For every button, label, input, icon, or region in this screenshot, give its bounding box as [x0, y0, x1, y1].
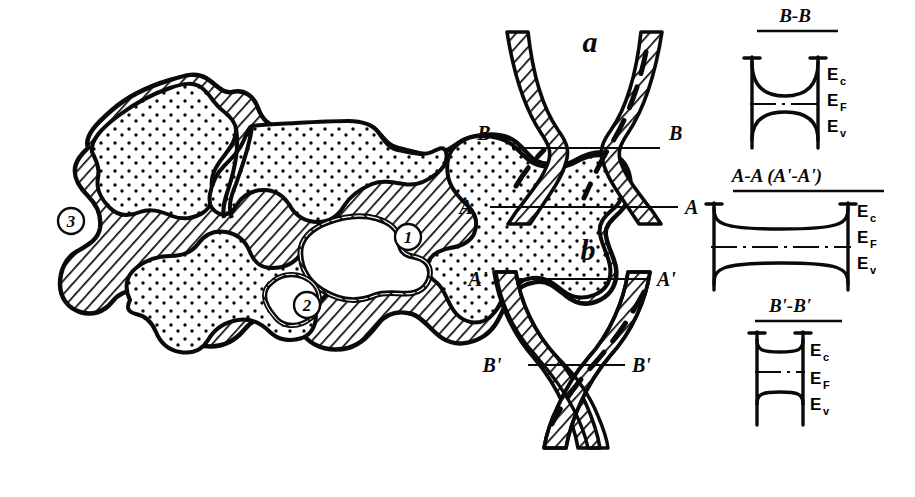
ev-label-bb: E v: [827, 117, 847, 139]
ec-symbol-aa: E: [857, 202, 868, 221]
band-diagram-bb-title: B-B: [778, 5, 811, 26]
section-b-b-label-right: B: [668, 122, 682, 144]
ec-label-bpbp: E c: [810, 341, 829, 363]
callout-1-label: 1: [404, 228, 413, 247]
ef-symbol-bb: E: [827, 91, 838, 110]
ev-symbol-aa: E: [857, 254, 868, 273]
section-a-a-label-left: A: [457, 196, 472, 218]
ef-subscript-bpbp: F: [823, 379, 830, 391]
ef-subscript-bb: F: [840, 101, 847, 113]
bpbp-conduction-band: [757, 340, 803, 352]
callout-3: 3: [58, 208, 84, 234]
ev-symbol-bb: E: [827, 117, 838, 136]
ef-symbol-bpbp: E: [810, 369, 821, 388]
ef-symbol-aa: E: [857, 228, 868, 247]
aa-valence-band: [714, 263, 848, 284]
callout-1: 1: [395, 224, 421, 250]
band-diagram-bb: B-B E c E F E v: [744, 5, 847, 148]
bpbp-valence-band: [757, 392, 803, 404]
ev-subscript-aa: v: [870, 264, 877, 276]
section-b-b-label-left: B: [476, 122, 490, 144]
ec-subscript-bpbp: c: [823, 351, 829, 363]
section-b-prime-label-right: B': [631, 354, 651, 376]
callout-3-label: 3: [66, 212, 76, 231]
band-diagram-aa: A-A (A'-A') E c E F E v: [706, 165, 884, 290]
diagram-b-label: b: [581, 233, 596, 266]
ev-subscript-bb: v: [840, 127, 847, 139]
bb-valence-band: [752, 112, 818, 140]
ef-label-bpbp: E F: [810, 369, 830, 391]
figure-root: 1 2 3 B B A: [0, 0, 915, 497]
ev-subscript-bpbp: v: [823, 405, 830, 417]
band-diagram-bpbp: B'-B' E c E F E v: [749, 295, 842, 425]
band-diagram-bpbp-title: B'-B': [768, 295, 811, 316]
ec-symbol-bpbp: E: [810, 341, 821, 360]
section-b-prime-label-left: B': [482, 354, 502, 376]
section-a-prime-label-left: A': [467, 268, 488, 290]
aa-conduction-band: [714, 208, 848, 229]
section-a-a-label-right: A: [683, 196, 698, 218]
section-a-prime-label-right: A': [655, 268, 676, 290]
ef-label-bb: E F: [827, 91, 847, 113]
ef-subscript-aa: F: [870, 238, 877, 250]
figure-canvas: 1 2 3 B B A: [0, 0, 915, 497]
ev-symbol-bpbp: E: [810, 395, 821, 414]
ec-label-bb: E c: [827, 65, 846, 87]
ec-subscript-bb: c: [840, 75, 846, 87]
band-diagram-aa-title: A-A (A'-A'): [731, 165, 822, 187]
ec-subscript-aa: c: [870, 212, 876, 224]
callout-2-label: 2: [302, 296, 312, 315]
diagram-a-label: a: [583, 25, 598, 58]
ec-label-aa: E c: [857, 202, 876, 224]
ev-label-bpbp: E v: [810, 395, 830, 417]
bb-conduction-band: [752, 62, 818, 96]
ec-symbol-bb: E: [827, 65, 838, 84]
ef-label-aa: E F: [857, 228, 877, 250]
ev-label-aa: E v: [857, 254, 877, 276]
callout-2: 2: [294, 292, 320, 318]
